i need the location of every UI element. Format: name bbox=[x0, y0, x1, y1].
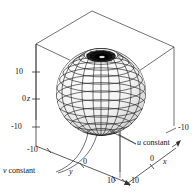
z-tick-neg10: -10 bbox=[11, 123, 22, 131]
depth-tick bbox=[166, 128, 176, 133]
v-constant-text: constant bbox=[7, 166, 36, 175]
x-axis-label: x bbox=[163, 158, 167, 166]
z-axis bbox=[32, 44, 40, 146]
y-tick-10: 10 bbox=[107, 177, 115, 185]
y-axis-label: y bbox=[69, 168, 73, 176]
z-axis-label: z bbox=[27, 95, 30, 103]
z-tick-10: 10 bbox=[15, 68, 23, 76]
y-tick-0: 0 bbox=[83, 158, 87, 166]
v-constant-leader bbox=[56, 133, 97, 173]
x-tick-0: 0 bbox=[150, 155, 154, 163]
y-tick-neg10: -10 bbox=[27, 146, 38, 154]
figure-3d-parametric-surface: z 10 0 -10 -10 0 10 y 0 10 x -10 u const… bbox=[0, 0, 194, 193]
u-constant-leader bbox=[110, 131, 136, 144]
z-tick-0: 0 bbox=[22, 95, 26, 103]
u-constant-text: constant bbox=[141, 138, 170, 147]
depth-edge-tick-neg10: -10 bbox=[178, 124, 189, 132]
y-axis bbox=[36, 146, 131, 186]
x-tick-10: 10 bbox=[131, 177, 139, 185]
v-constant-label: v constant bbox=[3, 167, 35, 175]
polar-funnel bbox=[84, 49, 118, 63]
u-constant-label: u constant bbox=[137, 139, 170, 147]
